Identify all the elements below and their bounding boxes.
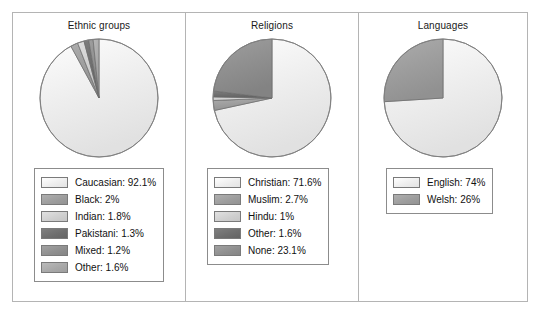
pie-chart-languages xyxy=(379,34,507,162)
legend-label: Caucasian: 92.1% xyxy=(75,177,156,188)
legend-ethnic-groups: Caucasian: 92.1%Black: 2%Indian: 1.8%Pak… xyxy=(34,168,164,282)
legend-languages: English: 74%Welsh: 26% xyxy=(386,168,493,214)
panel-title-religions: Religions xyxy=(251,20,293,31)
legend-item: None: 23.1% xyxy=(214,242,321,259)
legend-item: Christian: 71.6% xyxy=(214,174,321,191)
legend-swatch xyxy=(214,245,241,256)
legend-item: Indian: 1.8% xyxy=(41,208,156,225)
legend-label: Christian: 71.6% xyxy=(248,177,321,188)
legend-swatch xyxy=(41,194,68,205)
legend-label: Black: 2% xyxy=(75,194,119,205)
legend-item: English: 74% xyxy=(393,174,485,191)
legend-label: Welsh: 26% xyxy=(427,194,480,205)
chart-panel-religions: Religions Christian: 71.6%Muslim: 2.7%Hi… xyxy=(186,13,359,301)
legend-swatch xyxy=(214,194,241,205)
pie-chart-religions xyxy=(208,34,336,162)
legend-label: Mixed: 1.2% xyxy=(75,245,130,256)
legend-label: Other: 1.6% xyxy=(75,262,128,273)
legend-swatch xyxy=(41,211,68,222)
legend-label: Pakistani: 1.3% xyxy=(75,228,144,239)
legend-label: Hindu: 1% xyxy=(248,211,294,222)
panel-title-languages: Languages xyxy=(418,20,468,31)
chart-panel-languages: Languages English: 74%Welsh: 26% xyxy=(359,13,527,301)
panel-title-ethnic-groups: Ethnic groups xyxy=(68,20,130,31)
legend-item: Caucasian: 92.1% xyxy=(41,174,156,191)
legend-item: Other: 1.6% xyxy=(41,259,156,276)
legend-label: Muslim: 2.7% xyxy=(248,194,308,205)
pie-chart-ethnic-groups xyxy=(35,34,163,162)
legend-swatch xyxy=(41,228,68,239)
legend-swatch xyxy=(214,211,241,222)
chart-figure: Ethnic groups Caucasian: 92.1%Black: 2%I… xyxy=(12,12,528,302)
legend-religions: Christian: 71.6%Muslim: 2.7%Hindu: 1%Oth… xyxy=(207,168,329,265)
legend-label: Indian: 1.8% xyxy=(75,211,131,222)
chart-panel-ethnic-groups: Ethnic groups Caucasian: 92.1%Black: 2%I… xyxy=(13,13,186,301)
legend-item: Other: 1.6% xyxy=(214,225,321,242)
legend-item: Black: 2% xyxy=(41,191,156,208)
legend-item: Hindu: 1% xyxy=(214,208,321,225)
legend-label: None: 23.1% xyxy=(248,245,306,256)
legend-swatch xyxy=(41,177,68,188)
legend-swatch xyxy=(393,177,420,188)
legend-label: English: 74% xyxy=(427,177,485,188)
legend-label: Other: 1.6% xyxy=(248,228,301,239)
legend-item: Muslim: 2.7% xyxy=(214,191,321,208)
legend-item: Welsh: 26% xyxy=(393,191,485,208)
legend-swatch xyxy=(214,228,241,239)
legend-item: Mixed: 1.2% xyxy=(41,242,156,259)
legend-item: Pakistani: 1.3% xyxy=(41,225,156,242)
legend-swatch xyxy=(393,194,420,205)
legend-swatch xyxy=(214,177,241,188)
legend-swatch xyxy=(41,245,68,256)
legend-swatch xyxy=(41,262,68,273)
